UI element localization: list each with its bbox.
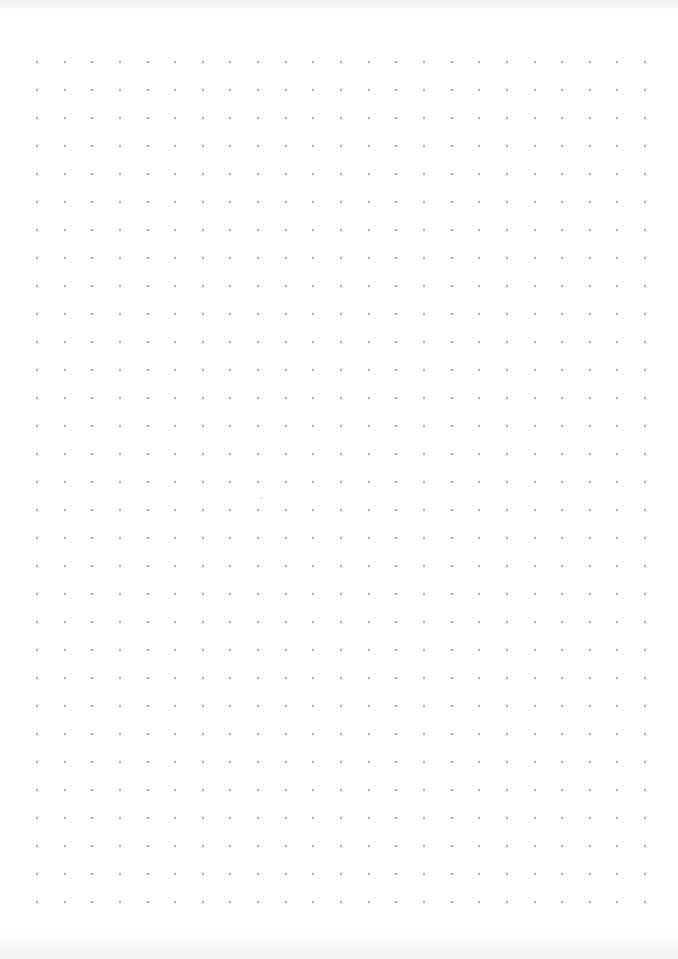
grid-dot: [451, 509, 453, 511]
grid-dot: [589, 565, 591, 567]
grid-dot: [644, 677, 646, 679]
grid-dot: [616, 89, 618, 91]
grid-dot: [616, 621, 618, 623]
grid-dot: [616, 789, 618, 791]
grid-dot: [257, 341, 259, 343]
grid-dot: [451, 425, 453, 427]
grid-dot: [451, 789, 453, 791]
grid-dot: [561, 677, 563, 679]
grid-dot: [423, 789, 425, 791]
grid-dot: [64, 89, 66, 91]
grid-dot: [616, 845, 618, 847]
grid-dot: [229, 621, 231, 623]
grid-dot: [616, 649, 618, 651]
grid-dot: [64, 453, 66, 455]
grid-dot: [147, 761, 149, 763]
grid-dot: [478, 901, 480, 903]
grid-dot: [395, 621, 397, 623]
grid-dot: [423, 229, 425, 231]
grid-dot: [285, 89, 287, 91]
grid-dot: [285, 761, 287, 763]
grid-dot: [202, 705, 204, 707]
grid-dot: [285, 285, 287, 287]
grid-dot: [589, 817, 591, 819]
grid-dot: [174, 537, 176, 539]
grid-dot: [257, 873, 259, 875]
grid-dot: [616, 761, 618, 763]
grid-dot: [174, 117, 176, 119]
grid-dot: [644, 285, 646, 287]
grid-dot: [64, 537, 66, 539]
grid-dot: [644, 481, 646, 483]
grid-dot: [36, 705, 38, 707]
grid-dot: [451, 173, 453, 175]
grid-dot: [451, 705, 453, 707]
grid-dot: [147, 229, 149, 231]
grid-dot: [229, 789, 231, 791]
grid-dot: [312, 201, 314, 203]
grid-dot: [616, 873, 618, 875]
grid-dot: [202, 425, 204, 427]
grid-dot: [147, 845, 149, 847]
grid-dot: [174, 845, 176, 847]
grid-dot: [506, 173, 508, 175]
grid-dot: [257, 285, 259, 287]
grid-dot: [202, 257, 204, 259]
grid-dot: [423, 313, 425, 315]
grid-dot: [561, 761, 563, 763]
grid-dot: [506, 313, 508, 315]
grid-dot: [174, 705, 176, 707]
grid-dot: [506, 537, 508, 539]
grid-dot: [202, 537, 204, 539]
grid-dot: [423, 901, 425, 903]
grid-dot: [423, 61, 425, 63]
grid-dot: [202, 873, 204, 875]
grid-dot: [395, 481, 397, 483]
grid-dot: [64, 369, 66, 371]
grid-dot: [312, 481, 314, 483]
grid-dot: [478, 257, 480, 259]
grid-dot: [119, 145, 121, 147]
grid-dot: [174, 145, 176, 147]
grid-dot: [91, 845, 93, 847]
grid-dot: [368, 873, 370, 875]
grid-dot: [91, 789, 93, 791]
grid-dot: [395, 145, 397, 147]
grid-dot: [451, 733, 453, 735]
grid-dot: [119, 901, 121, 903]
grid-dot: [229, 341, 231, 343]
grid-dot: [229, 733, 231, 735]
grid-dot: [395, 173, 397, 175]
grid-dot: [64, 117, 66, 119]
grid-dot: [147, 313, 149, 315]
grid-dot: [202, 565, 204, 567]
grid-dot: [340, 901, 342, 903]
grid-dot: [423, 621, 425, 623]
grid-dot: [506, 369, 508, 371]
grid-dot: [589, 649, 591, 651]
grid-dot: [285, 481, 287, 483]
grid-dot: [561, 649, 563, 651]
grid-dot: [119, 341, 121, 343]
grid-dot: [119, 481, 121, 483]
grid-dot: [506, 509, 508, 511]
grid-dot: [36, 397, 38, 399]
grid-dot: [506, 453, 508, 455]
grid-dot: [174, 313, 176, 315]
grid-dot: [423, 705, 425, 707]
grid-dot: [589, 369, 591, 371]
grid-dot: [534, 145, 536, 147]
grid-dot: [589, 145, 591, 147]
grid-dot: [395, 817, 397, 819]
grid-dot: [423, 761, 425, 763]
grid-dot: [312, 145, 314, 147]
grid-dot: [368, 789, 370, 791]
grid-dot: [229, 397, 231, 399]
grid-dot: [616, 817, 618, 819]
grid-dot: [229, 313, 231, 315]
grid-dot: [64, 397, 66, 399]
grid-dot: [395, 593, 397, 595]
grid-dot: [589, 61, 591, 63]
grid-dot: [285, 453, 287, 455]
grid-dot: [368, 565, 370, 567]
